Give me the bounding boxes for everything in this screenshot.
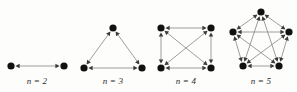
graph-edge xyxy=(265,15,286,30)
panel-label-k5: n = 5 xyxy=(251,76,272,86)
panel-label-k2: n = 2 xyxy=(27,76,48,86)
graph-node xyxy=(285,28,292,35)
graph-edge xyxy=(165,26,206,31)
graph-edge xyxy=(165,66,206,71)
graph-edge xyxy=(88,66,137,71)
graph-panel-k4 xyxy=(157,24,214,71)
panel-label-k3: n = 3 xyxy=(103,76,124,86)
graph-panel-k3 xyxy=(80,24,145,71)
graph-panel-k2 xyxy=(7,62,67,69)
graph-node xyxy=(207,24,214,31)
graph-edge xyxy=(237,30,284,35)
graph-edge xyxy=(233,36,243,62)
graph-node xyxy=(257,8,264,15)
panel-label-k4: n = 4 xyxy=(176,76,197,86)
complete-graphs-figure: n = 2n = 3n = 4n = 5 xyxy=(0,0,297,92)
graph-node xyxy=(157,24,164,31)
graph-node xyxy=(157,64,164,71)
graph-edge xyxy=(87,32,111,65)
graph-panel-k5 xyxy=(229,8,292,69)
graph-node xyxy=(7,62,14,69)
graph-node xyxy=(60,62,67,69)
graph-node xyxy=(80,64,87,71)
graph-node xyxy=(229,28,236,35)
graph-node xyxy=(275,62,282,69)
graph-edge xyxy=(209,32,214,63)
graph-edge xyxy=(159,32,164,63)
graph-edge xyxy=(279,36,289,62)
graph-edge xyxy=(237,15,258,30)
graph-edge xyxy=(15,64,59,69)
graph-node xyxy=(138,64,145,71)
graph-node xyxy=(207,64,214,71)
graph-edge xyxy=(116,32,140,65)
graph-node xyxy=(239,62,246,69)
graph-node xyxy=(109,24,116,31)
graph-edge xyxy=(247,64,274,69)
